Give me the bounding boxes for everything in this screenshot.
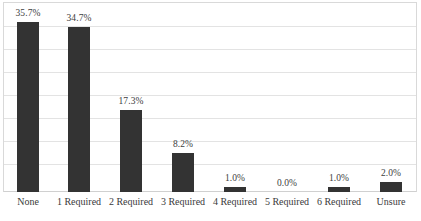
x-axis-tick-label: 1 Required [57,196,101,207]
bar-value-label: 8.2% [173,139,193,149]
bar-group-2-required: 17.3% [105,2,157,192]
x-axis-tick-label: None [17,196,39,207]
bar[interactable] [380,182,402,192]
bar-group-4-required: 1.0% [209,2,261,192]
bar[interactable] [172,153,194,192]
bar-value-label: 17.3% [118,96,143,106]
bar[interactable] [120,110,142,192]
x-axis-tick-label: 5 Required [265,196,309,207]
x-axis-tick-label: 3 Required [161,196,205,207]
bar-group-3-required: 8.2% [157,2,209,192]
bar-group-none: 35.7% [3,2,53,192]
bar-value-label: 1.0% [225,173,245,183]
bar[interactable] [328,187,350,192]
bar-group-unsure: 2.0% [365,2,417,192]
bar-value-label: 0.0% [277,178,297,188]
x-axis-labels: None 1 Required 2 Required 3 Required 4 … [3,196,417,218]
bar-group-6-required: 1.0% [313,2,365,192]
x-axis-tick-label: Unsure [377,196,406,207]
bar[interactable] [68,27,90,192]
bars-layer: 35.7% 34.7% 17.3% 8.2% 1.0% 0.0% 1.0% [3,2,417,192]
bar-group-1-required: 34.7% [53,2,105,192]
bar-chart: 35.7% 34.7% 17.3% 8.2% 1.0% 0.0% 1.0% [0,0,421,221]
bar-group-5-required: 0.0% [261,2,313,192]
bar[interactable] [17,22,39,192]
x-axis-tick-label: 6 Required [317,196,361,207]
x-axis-tick-label: 2 Required [109,196,153,207]
bar-value-label: 2.0% [381,168,401,178]
bar-value-label: 1.0% [329,173,349,183]
x-axis-tick-label: 4 Required [213,196,257,207]
bar-value-label: 35.7% [15,8,40,18]
bar-value-label: 34.7% [66,13,91,23]
bar[interactable] [224,187,246,192]
